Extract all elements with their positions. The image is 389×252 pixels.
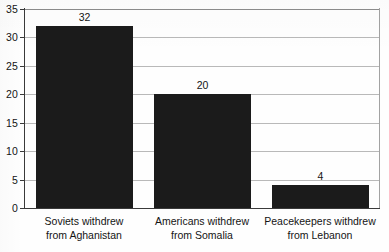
y-axis-line [24,8,25,209]
y-axis-tick-label: 15 [6,118,18,129]
y-axis-tick-mark [20,123,25,124]
bar-value-label: 20 [154,80,251,91]
category-label-line: Peacekeepers withdrew [253,215,387,229]
y-axis-tick-label: 30 [6,32,18,43]
category-label: Peacekeepers withdrewfrom Lebanon [253,215,387,242]
y-axis-tick-label: 5 [12,175,18,186]
y-axis-tick-label: 35 [6,4,18,15]
category-label-line: from Lebanon [253,229,387,243]
category-label-line: Soviets withdrew [17,215,151,229]
y-axis-tick-mark [20,208,25,209]
y-axis-tick-mark [20,9,25,10]
x-axis-line [24,208,380,209]
bar [154,94,251,208]
bar-chart-figure: 05101520253035 32204 Soviets withdrewfro… [0,0,389,252]
category-label-line: Americans withdrew [135,215,269,229]
bar-value-label: 32 [36,12,133,23]
category-label-line: from Aghanistan [17,229,151,243]
y-axis-tick-label: 25 [6,61,18,72]
y-axis-tick-label: 20 [6,89,18,100]
y-axis-tick-mark [20,151,25,152]
y-axis-tick-label: 10 [6,146,18,157]
y-axis-tick-mark [20,94,25,95]
category-label: Soviets withdrewfrom Aghanistan [17,215,151,242]
bar [272,185,369,208]
bar-value-label: 4 [272,171,369,182]
gridline [25,9,379,10]
bar [36,26,133,208]
y-axis-tick-mark [20,37,25,38]
y-axis-tick-mark [20,66,25,67]
plot-right-border [379,8,380,208]
category-label-line: from Somalia [135,229,269,243]
category-label: Americans withdrewfrom Somalia [135,215,269,242]
y-axis-tick-mark [20,180,25,181]
y-axis-tick-label: 0 [12,203,18,214]
